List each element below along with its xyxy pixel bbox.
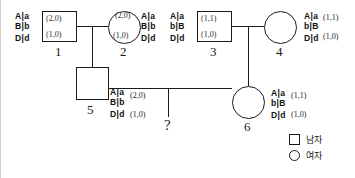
individual-1-value-top: (2,0): [46, 15, 61, 24]
individual-1-genotype: A|a B|b D|d: [15, 12, 29, 44]
individual-2-value-top: (2,0): [115, 12, 130, 21]
individual-4-value-bottom: (1,0): [323, 33, 338, 42]
individual-3-locus-b: b|B: [170, 22, 184, 32]
individual-4-genotype: A|a b|B D|d: [304, 12, 318, 44]
allele: a: [179, 11, 184, 21]
individual-6-value-bottom: (1,0): [291, 111, 306, 120]
individual-6-locus-b: b|B: [271, 99, 285, 109]
individual-6-value-top: (1,1): [291, 92, 306, 101]
individual-3-value-top: (1,1): [201, 15, 216, 24]
unknown-offspring-marker: ?: [164, 118, 171, 133]
allele: d: [179, 33, 184, 43]
legend-label-male: 남자: [306, 133, 322, 146]
individual-3-genotype: A|a b|B D|d: [170, 12, 184, 44]
individual-3-locus-d: D|d: [170, 34, 184, 44]
individual-1-value-bottom: (1,0): [46, 31, 61, 40]
circle-female-icon: [289, 150, 300, 161]
legend: 남자 여자: [289, 131, 322, 163]
allele: a: [280, 88, 285, 98]
allele: B: [312, 21, 318, 31]
allele: b: [24, 21, 29, 31]
individual-4-locus-b: b|B: [304, 22, 318, 32]
individual-2-value-bottom: (1,0): [113, 32, 128, 41]
individual-1-id: 1: [55, 45, 62, 58]
mating-line-5-6: [109, 88, 232, 89]
allele: b: [150, 21, 155, 31]
legend-item-male: 남자: [289, 131, 322, 147]
individual-6-genotype: A|a b|B D|d: [271, 89, 285, 121]
individual-4-value-top: (1,1): [323, 14, 338, 23]
individual-2-locus-b: B|b: [141, 22, 155, 32]
individual-4-locus-d: D|d: [304, 34, 318, 44]
individual-5-locus-b: B|b: [110, 98, 124, 108]
individual-2-locus-d: D|d: [141, 34, 155, 44]
individual-2-id: 2: [120, 45, 127, 58]
individual-6-symbol[interactable]: [232, 86, 265, 119]
allele: d: [280, 110, 285, 120]
square-male-icon: [289, 134, 300, 145]
individual-5-symbol[interactable]: [76, 67, 109, 100]
individual-2-genotype: A|a B|b D|d: [141, 12, 155, 44]
individual-1-locus-d: D|d: [15, 34, 29, 44]
allele: d: [313, 33, 318, 43]
allele: a: [150, 11, 155, 21]
individual-4-id: 4: [276, 45, 283, 58]
individual-3-value-bottom: (1,0): [201, 31, 216, 40]
descent-line-couple-3-4: [248, 26, 249, 86]
pedigree-diagram: 1 A|a B|b D|d (2,0) (1,0) 2 A|a B|b D|d …: [0, 0, 355, 178]
individual-6-id: 6: [244, 120, 251, 133]
allele: d: [150, 33, 155, 43]
individual-5-value-bottom: (1,0): [130, 111, 145, 120]
allele: b: [119, 97, 124, 107]
allele: B: [279, 98, 285, 108]
allele: d: [119, 109, 124, 119]
individual-3-id: 3: [210, 45, 217, 58]
legend-item-female: 여자: [289, 147, 322, 163]
individual-4-symbol[interactable]: [264, 11, 297, 44]
descent-line-couple-5-6: [168, 88, 169, 117]
individual-5-genotype: A|a B|b D|d: [110, 88, 124, 120]
individual-6-locus-d: D|d: [271, 111, 285, 121]
allele: B: [178, 21, 184, 31]
allele: a: [24, 11, 29, 21]
individual-5-id: 5: [87, 103, 94, 116]
descent-line-couple-1-2: [92, 26, 93, 67]
allele: d: [24, 33, 29, 43]
individual-5-locus-d: D|d: [110, 110, 124, 120]
individual-5-value-top: (2,0): [130, 92, 145, 101]
individual-1-locus-b: B|b: [15, 22, 29, 32]
legend-label-female: 여자: [306, 149, 322, 162]
allele: a: [313, 11, 318, 21]
